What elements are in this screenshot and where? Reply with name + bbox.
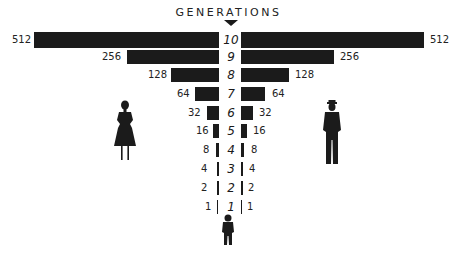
left-bar [34, 32, 219, 48]
left-count: 256 [102, 50, 121, 64]
right-bar [241, 32, 424, 48]
right-bar [241, 143, 244, 157]
right-count: 8 [251, 143, 257, 157]
right-count: 512 [430, 32, 449, 48]
right-count: 4 [249, 162, 255, 176]
right-count: 2 [248, 181, 254, 195]
right-bar [241, 181, 243, 195]
generation-row: 16 5 16 [0, 124, 457, 138]
left-bar [127, 50, 219, 64]
left-bar [171, 68, 219, 82]
man-silhouette-icon [320, 100, 344, 166]
right-bar [241, 50, 334, 64]
left-count: 32 [188, 106, 201, 120]
generation-row: 4 3 4 [0, 162, 457, 176]
right-bar [241, 87, 265, 101]
right-count: 1 [247, 200, 253, 214]
diagram-title: GENERATIONS [0, 6, 457, 19]
generation-row: 512 10 512 [0, 32, 457, 48]
right-count: 128 [295, 68, 314, 82]
down-arrow-icon [224, 20, 238, 26]
generation-row: 256 9 256 [0, 50, 457, 64]
generation-row: 8 4 8 [0, 143, 457, 157]
right-bar [241, 106, 253, 120]
child-silhouette-icon [220, 214, 236, 246]
right-bar [241, 200, 242, 214]
right-count: 256 [340, 50, 359, 64]
woman-silhouette-icon [110, 100, 140, 162]
left-count: 2 [201, 181, 207, 195]
generation-row: 2 2 2 [0, 181, 457, 195]
generation-row: 32 6 32 [0, 106, 457, 120]
right-bar [241, 68, 289, 82]
right-bar [241, 162, 243, 176]
left-count: 8 [203, 143, 209, 157]
right-count: 32 [259, 106, 272, 120]
generation-row: 64 7 64 [0, 87, 457, 101]
right-count: 64 [272, 87, 285, 101]
left-count: 512 [12, 32, 31, 48]
left-count: 64 [177, 87, 190, 101]
right-count: 16 [253, 124, 266, 138]
left-count: 1 [205, 200, 211, 214]
right-bar [241, 124, 247, 138]
left-count: 4 [201, 162, 207, 176]
left-count: 16 [196, 124, 209, 138]
generation-row: 1 1 1 [0, 200, 457, 214]
left-count: 128 [148, 68, 167, 82]
generation-row: 128 8 128 [0, 68, 457, 82]
